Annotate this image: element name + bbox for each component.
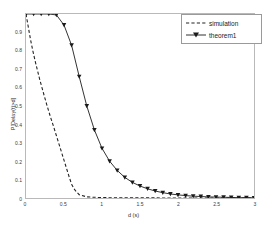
x-axis-label: d (s): [0, 212, 267, 218]
data-point-marker: [77, 75, 82, 79]
y-axis-tick-0.5: 0.5: [0, 103, 22, 109]
data-point-marker: [130, 180, 135, 184]
data-point-marker: [100, 146, 105, 150]
legend-swatch-solid-line-triangle-marker: [185, 30, 207, 40]
legend-label-theorem1: theorem1: [209, 32, 236, 39]
x-axis-tick-1.5: 1.5: [137, 201, 144, 207]
y-axis-tick-0.8: 0.8: [0, 47, 22, 53]
y-axis-tick-0.9: 0.9: [0, 29, 22, 35]
x-axis-tick-1: 1: [100, 201, 103, 207]
y-axis-tick-0.4: 0.4: [0, 122, 22, 128]
data-point-marker: [92, 128, 97, 132]
data-point-marker: [62, 23, 67, 27]
x-axis-tick-0.5: 0.5: [60, 201, 67, 207]
y-axis-tick-0.6: 0.6: [0, 84, 22, 90]
data-point-marker: [123, 175, 128, 179]
legend-swatch-dashed-line: [185, 18, 207, 28]
x-axis-tick-2: 2: [177, 201, 180, 207]
y-axis-tick-0.7: 0.7: [0, 66, 22, 72]
data-point-marker: [85, 104, 90, 108]
y-axis-tick-0: 0: [0, 196, 22, 202]
x-axis-tick-3: 3: [254, 201, 257, 207]
figure-canvas: P[Delay(t)>d] 00.10.20.30.40.50.60.70.80…: [0, 0, 267, 228]
y-axis-tick-0.3: 0.3: [0, 140, 22, 146]
data-point-marker: [69, 43, 74, 47]
x-axis-tick-2.5: 2.5: [213, 201, 220, 207]
y-axis-tick-0.1: 0.1: [0, 177, 22, 183]
legend-item-theorem1[interactable]: theorem1: [185, 29, 258, 41]
y-axis-tick-0.2: 0.2: [0, 159, 22, 165]
legend-item-simulation[interactable]: simulation: [185, 17, 258, 29]
x-axis-tick-0: 0: [24, 201, 27, 207]
chart-legend[interactable]: simulation theorem1: [181, 14, 262, 44]
legend-label-simulation: simulation: [209, 20, 238, 27]
